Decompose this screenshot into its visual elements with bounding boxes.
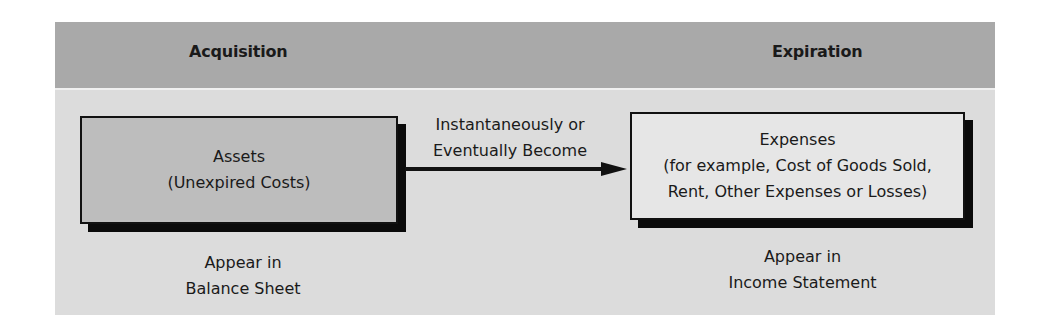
expenses-example-line1: (for example, Cost of Goods Sold, (663, 153, 932, 179)
arrow-label: Instantaneously or Eventually Become (400, 112, 620, 164)
assets-subtitle: (Unexpired Costs) (167, 170, 310, 196)
assets-caption-line2: Balance Sheet (89, 276, 397, 302)
expenses-example-line2: Rent, Other Expenses or Losses) (668, 179, 928, 205)
expenses-box: Expenses (for example, Cost of Goods Sol… (630, 112, 965, 220)
right-arrow-icon (405, 162, 627, 176)
assets-box: Assets (Unexpired Costs) (80, 116, 398, 224)
expenses-caption-line2: Income Statement (630, 270, 975, 296)
assets-title: Assets (213, 144, 265, 170)
header-band: Acquisition Expiration (55, 22, 995, 88)
assets-caption: Appear in Balance Sheet (89, 250, 397, 302)
expenses-caption: Appear in Income Statement (630, 244, 975, 296)
arrow-label-line1: Instantaneously or (400, 112, 620, 138)
arrow-label-line2: Eventually Become (400, 138, 620, 164)
acquisition-heading: Acquisition (189, 42, 288, 61)
expiration-heading: Expiration (772, 42, 862, 61)
assets-caption-line1: Appear in (89, 250, 397, 276)
diagram-panel: Acquisition Expiration Assets (Unexpired… (55, 22, 995, 315)
expenses-title: Expenses (759, 127, 835, 153)
expenses-caption-line1: Appear in (630, 244, 975, 270)
